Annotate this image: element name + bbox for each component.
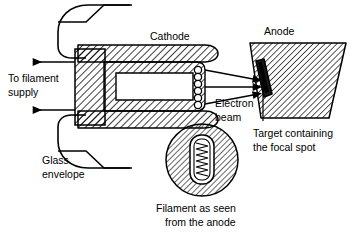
label-filament-supply-line1: To filament xyxy=(8,72,59,84)
label-electron-beam-line2: beam xyxy=(215,111,242,123)
label-inset-caption-line2: from the anode xyxy=(165,216,236,228)
cathode-support-block xyxy=(75,49,105,125)
label-target-line1: Target containing xyxy=(253,127,333,139)
filament-supply-arrows xyxy=(33,62,75,110)
label-inset-caption-line1: Filament as seen xyxy=(156,202,236,214)
focusing-cup xyxy=(104,62,205,111)
label-cathode: Cathode xyxy=(150,30,190,42)
label-electron-beam-line1: Electron xyxy=(215,97,254,109)
filament-inset xyxy=(166,124,238,196)
label-glass-envelope-line1: Glass xyxy=(42,154,69,166)
label-filament-supply-line2: supply xyxy=(8,86,39,98)
label-glass-envelope-line2: envelope xyxy=(42,168,85,180)
label-anode: Anode xyxy=(264,25,295,37)
xray-tube-diagram: Cathode Anode To filament supply Electro… xyxy=(0,0,355,236)
label-target-line2: the focal spot xyxy=(253,141,316,153)
